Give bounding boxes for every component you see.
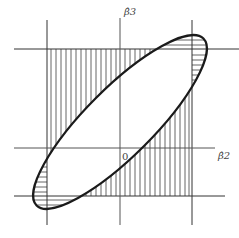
x-axis-label: β̂2 [218,150,230,161]
origin-label: 0 [122,151,128,162]
interval-lines [14,20,239,225]
confidence-diagram [0,0,239,238]
y-axis-label: β̂3 [124,6,136,17]
